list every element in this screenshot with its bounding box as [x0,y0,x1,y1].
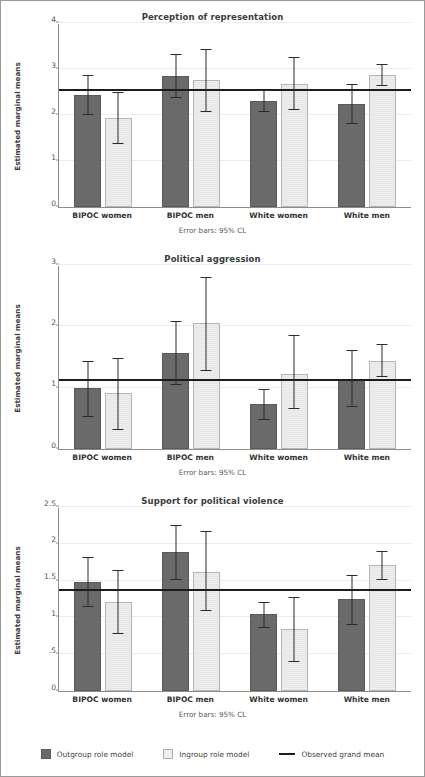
error-bar-cap-bottom [289,661,300,662]
error-bar-cap-bottom [170,384,181,385]
error-bar [369,344,395,377]
error-bar-cap-top [82,557,93,558]
legend-label: Outgroup role model [57,750,134,759]
x-axis-category-label: BIPOC women [72,453,132,462]
error-bar-cap-top [258,602,269,603]
error-bar-cap-bottom [170,579,181,580]
error-bar [74,557,100,607]
error-bar [250,90,276,112]
error-bar-cap-bottom [258,419,269,420]
error-bar-stem [175,321,176,384]
bar [369,565,395,691]
x-axis-category-label: BIPOC men [167,453,214,462]
error-bar-cap-top [289,597,300,598]
error-bar-stem [382,551,383,580]
error-bar [162,321,188,384]
figure-container: Perception of representation Estimated m… [0,0,425,777]
error-bar-cap-bottom [201,111,212,112]
error-bar-cap-bottom [113,143,124,144]
x-axis-category-label: White women [249,453,308,462]
chart-panel-2: Political aggression Estimated marginal … [6,247,419,489]
error-bar-cap-top [201,531,212,532]
x-axis-labels-1: BIPOC womenBIPOC menWhite womenWhite men [58,208,411,224]
error-bar-stem [206,277,207,371]
legend-item: Ingroup role model [163,749,249,759]
error-bar-cap-top [201,49,212,50]
error-bar-cap-bottom [289,109,300,110]
plot-area-3: Estimated marginal means 0.511.522.5 [40,508,411,692]
error-bar-cap-top [377,64,388,65]
error-bar [74,361,100,416]
plot-area-1: Estimated marginal means 01234 [40,24,411,208]
error-bar-cap-top [346,575,357,576]
legend-label: Observed grand mean [301,750,384,759]
error-bar-stem [118,92,119,144]
error-bar-stem [175,54,176,97]
error-bar-cap-bottom [170,97,181,98]
error-bar-stem [175,525,176,580]
bar [369,75,395,207]
error-bar-cap-top [170,54,181,55]
y-axis-label-3: Estimated marginal means [10,508,24,692]
figure-legend: Outgroup role modelIngroup role modelObs… [6,731,419,773]
axis-area-2: 0123 [58,266,411,450]
error-bar [369,64,395,86]
error-bar-stem [263,389,264,420]
error-bar-cap-top [201,277,212,278]
error-bar-cap-bottom [346,624,357,625]
error-bar-cap-top [346,350,357,351]
error-bar-cap-bottom [258,111,269,112]
error-bar-stem [263,90,264,112]
error-bar-cap-bottom [201,370,212,371]
legend-label: Ingroup role model [179,750,249,759]
gridline [59,264,411,265]
error-bar-cap-top [82,361,93,362]
error-bar [281,597,307,663]
error-bar-stem [206,531,207,611]
axis-area-1: 01234 [58,24,411,208]
gridline [59,506,411,507]
error-bar-cap-top [377,551,388,552]
error-bar-cap-top [170,321,181,322]
error-bar-cap-bottom [82,606,93,607]
error-bar-cap-bottom [113,429,124,430]
legend-swatch-icon [41,749,51,759]
error-bar [193,277,219,371]
y-axis-tick-mark [56,506,59,507]
error-bar [105,570,131,634]
error-note-2: Error bars: 95% CL [6,466,419,477]
error-bar-cap-bottom [289,408,300,409]
error-note-1: Error bars: 95% CL [6,224,419,235]
error-bar-stem [206,49,207,112]
error-bar-stem [87,361,88,416]
error-bar [369,551,395,580]
x-axis-category-label: White women [249,211,308,220]
error-bar [193,531,219,611]
error-bar-cap-bottom [82,416,93,417]
legend-swatch-icon [163,749,173,759]
x-axis-category-label: BIPOC men [167,695,214,704]
x-axis-category-label: White women [249,695,308,704]
gridline [59,22,411,23]
y-axis-tick-mark [56,264,59,265]
y-axis-label-2: Estimated marginal means [10,266,24,450]
error-bar-stem [263,602,264,628]
error-bar-cap-bottom [82,114,93,115]
error-bar [162,54,188,97]
x-axis-category-label: White men [344,453,390,462]
error-bar-cap-top [170,525,181,526]
legend-item: Outgroup role model [41,749,134,759]
legend-item: Observed grand mean [279,750,384,759]
error-bar-cap-bottom [113,633,124,634]
error-bar-cap-top [377,344,388,345]
error-bar-cap-bottom [377,85,388,86]
x-axis-category-label: White men [344,211,390,220]
error-bar [74,75,100,115]
chart-panel-3: Support for political violence Estimated… [6,489,419,731]
y-axis-tick-mark [56,22,59,23]
x-axis-category-label: BIPOC men [167,211,214,220]
grand-mean-line-icon [279,753,295,755]
error-bar-cap-top [113,570,124,571]
y-axis-tick-label: 1.5 [44,572,56,581]
error-bar [193,49,219,112]
